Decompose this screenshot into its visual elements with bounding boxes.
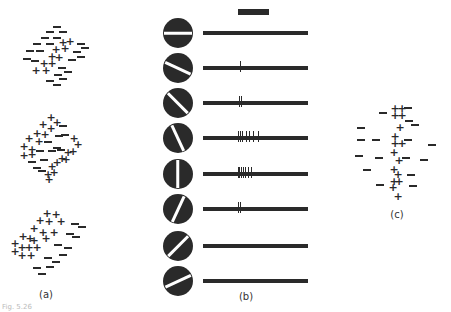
- light-slit: [171, 196, 185, 222]
- action-potential-spike: [248, 167, 249, 178]
- inhibitory-minus-mark: [357, 127, 365, 129]
- inhibitory-minus-mark: [405, 120, 413, 122]
- excitatory-plus-mark: +: [397, 110, 406, 121]
- inhibitory-minus-mark: [38, 170, 46, 172]
- inhibitory-minus-mark: [53, 26, 61, 28]
- inhibitory-minus-mark: [59, 125, 67, 127]
- action-potential-spike: [249, 131, 250, 142]
- inhibitory-minus-mark: [33, 43, 41, 45]
- inhibitory-minus-mark: [40, 159, 48, 161]
- excitatory-plus-mark: +: [61, 154, 70, 165]
- bar-orientation-stimulus-icon: [163, 53, 193, 83]
- action-potential-spike: [245, 167, 246, 178]
- inhibitory-minus-mark: [33, 167, 41, 169]
- inhibitory-minus-mark: [379, 112, 387, 114]
- light-slit: [177, 160, 180, 188]
- inhibitory-minus-mark: [72, 236, 80, 238]
- bar-orientation-stimulus-icon: [163, 231, 193, 261]
- inhibitory-minus-mark: [363, 169, 371, 171]
- inhibitory-minus-mark: [38, 273, 46, 275]
- inhibitory-minus-mark: [64, 247, 72, 249]
- excitatory-plus-mark: +: [41, 65, 50, 76]
- inhibitory-minus-mark: [31, 60, 39, 62]
- inhibitory-minus-mark: [54, 244, 62, 246]
- bar-orientation-stimulus-icon: [163, 18, 193, 48]
- excitatory-plus-mark: +: [393, 191, 402, 202]
- action-potential-spike: [258, 131, 259, 142]
- inhibitory-minus-mark: [33, 267, 41, 269]
- inhibitory-minus-mark: [73, 51, 81, 53]
- action-potential-spike: [240, 61, 241, 72]
- inhibitory-minus-mark: [68, 59, 76, 61]
- inhibitory-minus-mark: [64, 71, 72, 73]
- spike-train-trace: [203, 101, 308, 105]
- action-potential-spike: [243, 167, 244, 178]
- inhibitory-minus-mark: [46, 31, 54, 33]
- inhibitory-minus-mark: [66, 233, 74, 235]
- spike-train-trace: [203, 279, 308, 283]
- inhibitory-minus-mark: [78, 226, 86, 228]
- excitatory-plus-mark: +: [41, 233, 50, 244]
- action-potential-spike: [251, 167, 252, 178]
- inhibitory-minus-mark: [59, 78, 67, 80]
- excitatory-plus-mark: +: [17, 250, 26, 261]
- light-slit: [164, 32, 192, 35]
- inhibitory-minus-mark: [376, 184, 384, 186]
- stimulus-duration-bar: [238, 9, 269, 15]
- inhibitory-minus-mark: [54, 74, 62, 76]
- light-slit: [165, 274, 191, 288]
- inhibitory-minus-mark: [44, 257, 52, 259]
- action-potential-spike: [239, 167, 240, 178]
- inhibitory-minus-mark: [71, 223, 79, 225]
- inhibitory-minus-mark: [375, 157, 383, 159]
- inhibitory-minus-mark: [404, 107, 412, 109]
- bar-orientation-stimulus-icon: [163, 88, 193, 118]
- excitatory-plus-mark: +: [44, 174, 53, 185]
- inhibitory-minus-mark: [355, 155, 363, 157]
- inhibitory-minus-mark: [53, 84, 61, 86]
- light-slit: [165, 61, 191, 75]
- inhibitory-minus-mark: [52, 261, 60, 263]
- inhibitory-minus-mark: [44, 141, 52, 143]
- action-potential-spike: [238, 202, 239, 213]
- inhibitory-minus-mark: [53, 37, 61, 39]
- inhibitory-minus-mark: [36, 150, 44, 152]
- action-potential-spike: [242, 131, 243, 142]
- inhibitory-minus-mark: [357, 139, 365, 141]
- inhibitory-minus-mark: [428, 144, 436, 146]
- action-potential-spike: [239, 96, 240, 107]
- bar-orientation-stimulus-icon: [163, 159, 193, 189]
- inhibitory-minus-mark: [46, 266, 54, 268]
- action-potential-spike: [238, 131, 239, 142]
- inhibitory-minus-mark: [372, 139, 380, 141]
- excitatory-plus-mark: +: [26, 250, 35, 261]
- figure: ++++++++++++++++++++++++++++++++++++++++…: [0, 0, 451, 312]
- spike-train-trace: [203, 66, 308, 70]
- panel-c-label: (c): [390, 209, 403, 220]
- light-slit: [171, 125, 185, 151]
- inhibitory-minus-mark: [407, 174, 415, 176]
- inhibitory-minus-mark: [46, 43, 54, 45]
- action-potential-spike: [240, 131, 241, 142]
- figure-caption: Fig. 5.26: [2, 303, 32, 311]
- inhibitory-minus-mark: [411, 124, 419, 126]
- excitatory-plus-mark: +: [49, 227, 58, 238]
- inhibitory-minus-mark: [23, 58, 31, 60]
- spike-train-trace: [203, 136, 308, 140]
- inhibitory-minus-mark: [57, 149, 65, 151]
- inhibitory-minus-mark: [59, 31, 67, 33]
- inhibitory-minus-mark: [26, 50, 34, 52]
- inhibitory-minus-mark: [58, 67, 66, 69]
- inhibitory-minus-mark: [59, 254, 67, 256]
- inhibitory-minus-mark: [77, 56, 85, 58]
- light-slit: [167, 235, 189, 257]
- inhibitory-minus-mark: [81, 47, 89, 49]
- spike-train-trace: [203, 172, 308, 176]
- spike-train-trace: [203, 244, 308, 248]
- inhibitory-minus-mark: [36, 50, 44, 52]
- action-potential-spike: [253, 131, 254, 142]
- spike-train-trace: [203, 207, 308, 211]
- excitatory-plus-mark: +: [31, 65, 40, 76]
- bar-orientation-stimulus-icon: [163, 194, 193, 224]
- panel-b-label: (b): [239, 291, 253, 302]
